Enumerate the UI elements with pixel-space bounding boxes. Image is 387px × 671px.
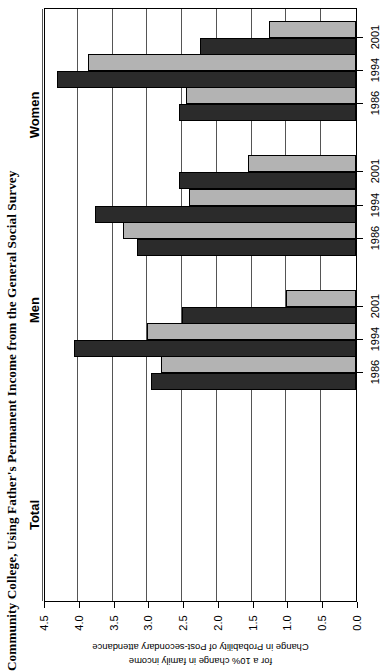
gridline: [42, 9, 43, 601]
value-tick-label-text: 1.5: [243, 608, 263, 638]
bar-men-1986-light: [123, 222, 356, 239]
category-axis: 200119941986200119941986200119941986: [357, 8, 387, 602]
bar-women-1994-light: [88, 54, 356, 71]
chart-title: Community College, Using Father's Perman…: [0, 0, 24, 671]
category-tick-label: 1986: [363, 346, 387, 398]
category-tick-label: 1986: [363, 77, 387, 129]
value-tick-label: 1.0: [277, 608, 297, 638]
plot-area: [44, 8, 357, 602]
value-tick-label: 0.0: [347, 608, 367, 638]
value-tick-label: 2.0: [208, 608, 228, 638]
category-tick-label-text: 1986: [363, 346, 387, 398]
bar-women-2001-dark: [200, 38, 357, 55]
bar-total-1986-light: [161, 356, 356, 373]
value-tick-label-text: 3.0: [138, 608, 158, 638]
value-tick-label-text: 2.0: [208, 608, 228, 638]
category-tick-label: 1986: [363, 212, 387, 264]
bar-women-1986-dark: [179, 104, 356, 121]
bar-total-2001-dark: [182, 307, 356, 324]
bar-men-1986-dark: [137, 239, 356, 256]
value-tick-label: 2.5: [173, 608, 193, 638]
value-axis-label-line2: for a 10% change in family income: [44, 654, 357, 668]
value-tick-label-text: 1.0: [277, 608, 297, 638]
value-tick-label-text: 0.5: [312, 608, 332, 638]
bar-total-1986-dark: [151, 373, 356, 390]
value-axis-label-line1: Change in Probability of Post-secondary …: [44, 640, 357, 654]
value-tick-label-text: 4.5: [34, 608, 54, 638]
bar-men-1994-light: [189, 189, 356, 206]
bar-women-1994-dark: [57, 71, 356, 88]
value-tick-label-text: 0.0: [347, 608, 367, 638]
chart-page: Community College, Using Father's Perman…: [0, 0, 387, 671]
bar-total-1994-light: [147, 323, 356, 340]
bar-total-1994-dark: [74, 340, 356, 357]
value-tick-label: 1.5: [243, 608, 263, 638]
value-axis: 0.00.51.01.52.02.53.03.54.04.5: [44, 602, 357, 636]
bar-men-1994-dark: [95, 206, 356, 223]
bar-women-1986-light: [186, 87, 356, 104]
value-tick-label-text: 3.5: [104, 608, 124, 638]
category-tick-label-text: 1986: [363, 77, 387, 129]
value-tick-label: 3.0: [138, 608, 158, 638]
gridline: [181, 9, 182, 601]
value-tick-label-text: 2.5: [173, 608, 193, 638]
value-tick-label: 0.5: [312, 608, 332, 638]
bar-men-2001-light: [248, 155, 356, 172]
bar-men-2001-dark: [179, 172, 356, 189]
gridline: [112, 9, 113, 601]
gridline: [77, 9, 78, 601]
category-tick-label-text: 1986: [363, 212, 387, 264]
gridline: [146, 9, 147, 601]
bar-total-2001-light: [286, 290, 356, 307]
value-axis-label: for a 10% change in family income Change…: [44, 638, 357, 668]
value-tick-label: 4.0: [69, 608, 89, 638]
value-tick-label-text: 4.0: [69, 608, 89, 638]
value-tick-label: 4.5: [34, 608, 54, 638]
value-tick-label: 3.5: [104, 608, 124, 638]
bar-women-2001-light: [269, 21, 356, 38]
chart-title-container: Community College, Using Father's Perman…: [0, 0, 24, 671]
